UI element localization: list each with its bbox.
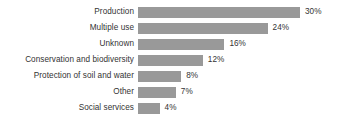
bar-value-label: 24% — [273, 23, 290, 33]
bar-value-label: 12% — [208, 55, 225, 65]
bar-row: Multiple use24% — [0, 20, 340, 36]
bar-track: 16% — [134, 39, 340, 50]
bar-track: 12% — [134, 55, 340, 66]
bar-track: 24% — [134, 23, 340, 34]
bar-category-label: Social services — [0, 103, 134, 113]
bar — [138, 55, 203, 66]
bar-category-label: Conservation and biodiversity — [0, 55, 134, 65]
bar — [138, 103, 160, 114]
bar-row: Production30% — [0, 4, 340, 20]
bar-category-label: Unknown — [0, 39, 134, 49]
bar-row: Social services4% — [0, 100, 340, 116]
bar-track: 4% — [134, 103, 340, 114]
bar-value-label: 7% — [181, 87, 193, 97]
bar-track: 7% — [134, 87, 340, 98]
bar-value-label: 30% — [305, 7, 322, 17]
bar-category-label: Protection of soil and water — [0, 71, 134, 81]
bar-category-label: Multiple use — [0, 23, 134, 33]
bar-track: 30% — [134, 7, 340, 18]
bar-row: Conservation and biodiversity12% — [0, 52, 340, 68]
bar-value-label: 4% — [165, 103, 177, 113]
bar-category-label: Production — [0, 7, 134, 17]
bar — [138, 87, 176, 98]
bar — [138, 7, 300, 18]
bar-row: Unknown16% — [0, 36, 340, 52]
bar-row: Other7% — [0, 84, 340, 100]
bar — [138, 71, 181, 82]
bar — [138, 23, 268, 34]
bar-category-label: Other — [0, 87, 134, 97]
bar-chart: Production30%Multiple use24%Unknown16%Co… — [0, 0, 340, 120]
bar-row: Protection of soil and water8% — [0, 68, 340, 84]
bar — [138, 39, 224, 50]
bar-track: 8% — [134, 71, 340, 82]
bar-value-label: 8% — [186, 71, 198, 81]
bar-value-label: 16% — [229, 39, 246, 49]
